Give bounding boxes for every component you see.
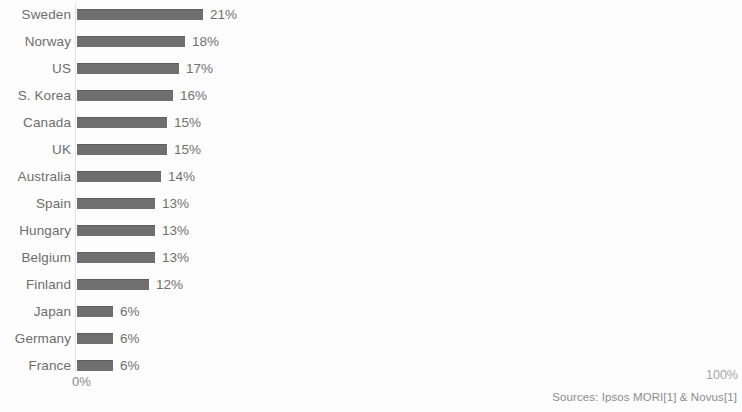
plot-area: Sweden21%Norway18%US17%S. Korea16%Canada…	[0, 0, 742, 372]
bar-category-label: Canada	[0, 109, 71, 136]
bar-category-label: Hungary	[0, 217, 71, 244]
axis-tick-max: 100%	[706, 368, 738, 382]
bar	[77, 90, 173, 101]
bar-value-label: 12%	[156, 271, 183, 298]
bar	[77, 252, 155, 263]
bar	[77, 117, 167, 128]
bar-row: Hungary13%	[0, 217, 742, 244]
bar-category-label: Norway	[0, 28, 71, 55]
bar-category-label: S. Korea	[0, 82, 71, 109]
bar-row: Spain13%	[0, 190, 742, 217]
bar	[77, 198, 155, 209]
bar	[77, 225, 155, 236]
bar-row: Japan6%	[0, 298, 742, 325]
bar	[77, 360, 113, 371]
bar	[77, 36, 185, 47]
axis-tick-zero: 0%	[72, 374, 91, 389]
bar-value-label: 16%	[180, 82, 207, 109]
bar-value-label: 18%	[192, 28, 219, 55]
bar-row: France6%	[0, 352, 742, 379]
bar-category-label: Germany	[0, 325, 71, 352]
bar-row: Canada15%	[0, 109, 742, 136]
bar-row: Sweden21%	[0, 1, 742, 28]
bar-row: Norway18%	[0, 28, 742, 55]
bar	[77, 333, 113, 344]
bar-row: Belgium13%	[0, 244, 742, 271]
bar-category-label: US	[0, 55, 71, 82]
bar-category-label: Japan	[0, 298, 71, 325]
bar	[77, 63, 179, 74]
bar-category-label: Australia	[0, 163, 71, 190]
bar-value-label: 6%	[120, 352, 140, 379]
bar-row: Germany6%	[0, 325, 742, 352]
bar-category-label: Finland	[0, 271, 71, 298]
bar-value-label: 6%	[120, 298, 140, 325]
bar-row: Australia14%	[0, 163, 742, 190]
bar-value-label: 13%	[162, 217, 189, 244]
bar-row: US17%	[0, 55, 742, 82]
bar	[77, 144, 167, 155]
bar-value-label: 17%	[186, 55, 213, 82]
bar-category-label: Sweden	[0, 1, 71, 28]
bar-row: UK15%	[0, 136, 742, 163]
sources-note: Sources: Ipsos MORI[1] & Novus[1]	[552, 391, 737, 403]
bar-chart-figure: Sweden21%Norway18%US17%S. Korea16%Canada…	[0, 0, 742, 412]
bar	[77, 171, 161, 182]
bar-row: Finland12%	[0, 271, 742, 298]
bar-value-label: 15%	[174, 136, 201, 163]
bar-category-label: France	[0, 352, 71, 379]
bar	[77, 306, 113, 317]
bar-value-label: 21%	[210, 1, 237, 28]
bar-value-label: 13%	[162, 244, 189, 271]
bar-category-label: Belgium	[0, 244, 71, 271]
bar-value-label: 14%	[168, 163, 195, 190]
bar-category-label: Spain	[0, 190, 71, 217]
bar	[77, 9, 203, 20]
bar-row: S. Korea16%	[0, 82, 742, 109]
bar-value-label: 15%	[174, 109, 201, 136]
bar	[77, 279, 149, 290]
bar-category-label: UK	[0, 136, 71, 163]
bar-value-label: 6%	[120, 325, 140, 352]
bar-value-label: 13%	[162, 190, 189, 217]
